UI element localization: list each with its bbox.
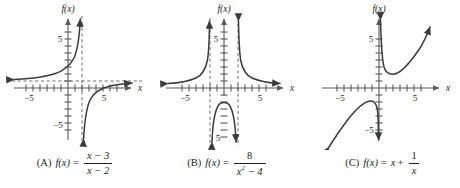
y-tick-label-neg5: −5	[53, 120, 63, 130]
panel-c-fx: f(x)	[363, 158, 378, 169]
x-tick-label-pos5: 5	[413, 93, 418, 103]
y-tick-label-pos5: 5	[214, 34, 219, 44]
panel-c-denominator: x	[409, 163, 420, 177]
y-tick-label-neg5: −5	[364, 125, 374, 135]
panel-b-numerator: 8	[244, 150, 255, 163]
panel-c-caption: (C) f(x) = x + 1 x	[308, 150, 458, 188]
panel-a-fraction: x − 3 x − 2	[84, 150, 112, 177]
curve-right-branch	[239, 21, 281, 84]
panel-c-equals: =	[381, 158, 387, 169]
panel-a-label: (A)	[37, 158, 52, 169]
y-tick-label-pos5: 5	[369, 34, 374, 44]
x-tick-label-neg5: −5	[335, 93, 345, 103]
panel-a-equals: =	[73, 158, 79, 169]
panel-c-numerator: 1	[408, 150, 419, 163]
y-tick-label-pos5: 5	[58, 34, 63, 44]
x-tick-label-pos5: 5	[102, 93, 107, 103]
panel-b-denominator-rest: − 4	[245, 165, 263, 176]
panel-b-plot: −5 5 5 5 f(x) x	[152, 0, 302, 150]
panel-c-plus: +	[398, 158, 404, 169]
panel-c-term-x: x	[391, 158, 396, 169]
x-axis-label: x	[445, 83, 451, 93]
y-axis-label: f(x)	[217, 4, 230, 15]
panel-b: −5 5 5 5 f(x) x (B) f(x) = 8 x2 − 4	[152, 0, 302, 188]
panel-c-plot: −5 5 5 −5 f(x) x	[308, 0, 458, 150]
panel-a-caption: (A) f(x) = x − 3 x − 2	[0, 150, 150, 188]
panel-b-label: (B)	[187, 158, 201, 169]
panel-a-denominator: x − 2	[84, 163, 112, 177]
x-axis-label: x	[289, 83, 295, 93]
panel-b-fraction: 8 x2 − 4	[234, 150, 266, 177]
panel-c: −5 5 5 −5 f(x) x (C) f(x) = x + 1 x	[308, 0, 458, 188]
panel-a-plot: −5 5 5 −5 f(x) x	[0, 0, 150, 150]
y-tick-label-neg5: 5	[216, 133, 221, 143]
y-axis-label: f(x)	[372, 4, 385, 15]
x-tick-label-pos5: 5	[258, 93, 263, 103]
panel-a: −5 5 5 −5 f(x) x (A) f(x) = x − 3 x − 2	[0, 0, 150, 188]
panel-a-fx: f(x)	[55, 158, 70, 169]
panel-b-equals: =	[223, 158, 229, 169]
curve-right-branch	[84, 83, 132, 139]
curve-right-branch	[381, 20, 431, 74]
panel-b-denominator: x2 − 4	[234, 163, 266, 177]
x-tick-label-neg5: −5	[24, 93, 34, 103]
panel-b-fx: f(x)	[205, 158, 220, 169]
panel-c-fraction: 1 x	[408, 150, 419, 177]
panel-b-caption: (B) f(x) = 8 x2 − 4	[152, 150, 302, 188]
curve-left-branch	[14, 19, 80, 80]
curve-left-branch	[329, 101, 379, 147]
x-axis-label: x	[137, 83, 143, 93]
rational-function-graphs-figure: −5 5 5 −5 f(x) x (A) f(x) = x − 3 x − 2	[0, 0, 460, 188]
panel-a-numerator: x − 3	[84, 150, 112, 163]
panel-c-label: (C)	[345, 158, 359, 169]
curve-left-branch	[168, 21, 210, 84]
x-tick-label-neg5: −5	[180, 93, 190, 103]
y-axis-label: f(x)	[61, 4, 74, 15]
